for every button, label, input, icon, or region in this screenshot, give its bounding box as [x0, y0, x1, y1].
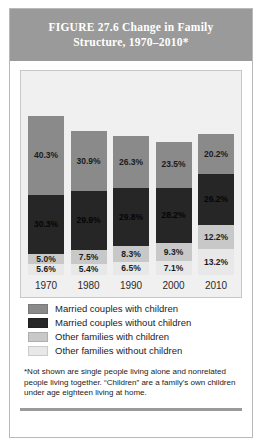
- x-axis-tick-1970: 1970: [28, 280, 64, 291]
- bar-value-label: 20.2%: [204, 150, 228, 159]
- bar-column-1990: 26.3%29.8%8.3%6.5%: [113, 79, 149, 275]
- bar-column-1980: 30.9%29.9%7.5%5.4%: [71, 79, 107, 275]
- bar-segment-1990-4: 6.5%: [113, 262, 149, 275]
- bar-segment-2000-3: 9.3%: [156, 243, 192, 261]
- legend-swatch-icon: [28, 346, 48, 356]
- bar-value-label: 13.2%: [204, 258, 228, 267]
- legend-swatch-icon: [28, 332, 48, 342]
- bar-value-label: 30.9%: [76, 157, 100, 166]
- bar-value-label: 30.3%: [34, 220, 58, 229]
- bar-value-label: 26.3%: [119, 158, 143, 167]
- bar-value-label: 40.3%: [34, 151, 58, 160]
- bar-segment-2000-2: 28.2%: [156, 188, 192, 243]
- figure-header: FIGURE 27.6 Change in Family Structure, …: [10, 9, 252, 61]
- stacked-bars: 40.3%30.3%5.0%5.6%30.9%29.9%7.5%5.4%26.3…: [28, 79, 234, 275]
- x-axis-tick-2010: 2010: [198, 280, 234, 291]
- bar-value-label: 29.9%: [76, 216, 100, 225]
- bar-value-label: 9.3%: [164, 248, 183, 257]
- x-axis-tick-1980: 1980: [71, 280, 107, 291]
- chart-plot-area: 40.3%30.3%5.0%5.6%30.9%29.9%7.5%5.4%26.3…: [20, 70, 242, 298]
- bar-segment-1980-1: 30.9%: [71, 131, 107, 192]
- figure-title-line-1: FIGURE 27.6 Change in Family: [22, 20, 240, 35]
- bar-segment-1970-3: 5.0%: [28, 254, 64, 264]
- legend-item-2: Married couples without children: [28, 317, 240, 328]
- bar-segment-1990-2: 29.8%: [113, 188, 149, 246]
- legend-label: Other families with children: [55, 331, 169, 342]
- bar-segment-1980-2: 29.9%: [71, 191, 107, 250]
- legend-swatch-icon: [28, 304, 48, 314]
- bar-segment-2010-2: 26.2%: [198, 174, 234, 225]
- bar-segment-1970-1: 40.3%: [28, 116, 64, 195]
- bar-value-label: 7.5%: [79, 253, 98, 262]
- bar-segment-1980-3: 7.5%: [71, 250, 107, 265]
- bar-value-label: 5.0%: [36, 255, 55, 264]
- bar-segment-2000-1: 23.5%: [156, 142, 192, 188]
- bar-segment-2010-4: 13.2%: [198, 249, 234, 275]
- figure-card: FIGURE 27.6 Change in Family Structure, …: [9, 8, 253, 438]
- bar-column-2000: 23.5%28.2%9.3%7.1%: [156, 79, 192, 275]
- footer-rule: [20, 408, 242, 411]
- bar-value-label: 6.5%: [121, 264, 140, 273]
- bar-segment-2010-3: 12.2%: [198, 225, 234, 249]
- bar-value-label: 29.8%: [119, 213, 143, 222]
- legend-label: Married couples with children: [55, 303, 178, 314]
- legend-item-3: Other families with children: [28, 331, 240, 342]
- legend-item-1: Married couples with children: [28, 303, 240, 314]
- x-axis-tick-2000: 2000: [156, 280, 192, 291]
- chart-legend: Married couples with childrenMarried cou…: [28, 303, 240, 359]
- bar-column-2010: 20.2%26.2%12.2%13.2%: [198, 79, 234, 275]
- x-axis-tick-labels: 19701980199020002010: [28, 275, 234, 297]
- bar-segment-2010-1: 20.2%: [198, 134, 234, 174]
- legend-item-4: Other families without children: [28, 345, 240, 356]
- bar-segment-1980-4: 5.4%: [71, 264, 107, 275]
- bar-segment-1970-4: 5.6%: [28, 264, 64, 275]
- figure-footnote: *Not shown are single people living alon…: [24, 367, 240, 399]
- legend-label: Other families without children: [55, 345, 182, 356]
- bar-value-label: 7.1%: [164, 264, 183, 273]
- bar-value-label: 23.5%: [161, 160, 185, 169]
- bar-segment-1990-3: 8.3%: [113, 246, 149, 262]
- bar-segment-1990-1: 26.3%: [113, 136, 149, 188]
- bar-segment-2000-4: 7.1%: [156, 261, 192, 275]
- bar-column-1970: 40.3%30.3%5.0%5.6%: [28, 79, 64, 275]
- bar-value-label: 26.2%: [204, 195, 228, 204]
- bar-value-label: 12.2%: [204, 233, 228, 242]
- bar-value-label: 5.6%: [36, 265, 55, 274]
- bar-value-label: 8.3%: [121, 250, 140, 259]
- legend-swatch-icon: [28, 318, 48, 328]
- x-axis-tick-1990: 1990: [113, 280, 149, 291]
- legend-label: Married couples without children: [55, 317, 191, 328]
- figure-title-line-2: Structure, 1970–2010*: [22, 35, 240, 50]
- bar-value-label: 28.2%: [161, 211, 185, 220]
- bar-value-label: 5.4%: [79, 265, 98, 274]
- bar-segment-1970-2: 30.3%: [28, 195, 64, 254]
